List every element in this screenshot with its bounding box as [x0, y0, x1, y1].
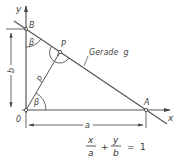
- dim-b-label: b: [7, 68, 16, 73]
- origin-label: 0: [16, 115, 21, 124]
- line-g-label: Gerade g: [89, 48, 128, 57]
- y-axis-label: y: [15, 4, 22, 14]
- formula-rhs: 1: [140, 142, 146, 152]
- point-a-label: A: [143, 98, 149, 107]
- dim-a-label: a: [85, 121, 90, 130]
- perpendicular-p: [26, 52, 60, 110]
- formula-a: a: [88, 148, 94, 158]
- line-intercept-diagram: y x 0 B P A Gerade g p β β b a x a + y b…: [0, 0, 177, 163]
- angle-o-label: β: [33, 98, 39, 107]
- formula-x: x: [87, 135, 94, 145]
- right-angle-dot: [57, 54, 59, 56]
- line-g: [14, 21, 167, 124]
- origin-marker: [24, 108, 27, 111]
- point-b-label: B: [29, 21, 35, 30]
- point-a-marker: [144, 108, 147, 111]
- formula-y: y: [112, 135, 119, 145]
- line-g-leader: [84, 56, 88, 66]
- point-p-label: P: [61, 40, 66, 49]
- x-axis-label: x: [167, 113, 174, 123]
- formula-plus: +: [101, 142, 109, 152]
- right-angle-arc-p: [50, 47, 69, 63]
- point-p-marker: [58, 50, 61, 53]
- formula-equals: =: [127, 142, 135, 152]
- angle-b-label: β: [28, 38, 34, 47]
- formula-b: b: [113, 148, 119, 158]
- intercept-formula: x a + y b = 1: [86, 135, 146, 158]
